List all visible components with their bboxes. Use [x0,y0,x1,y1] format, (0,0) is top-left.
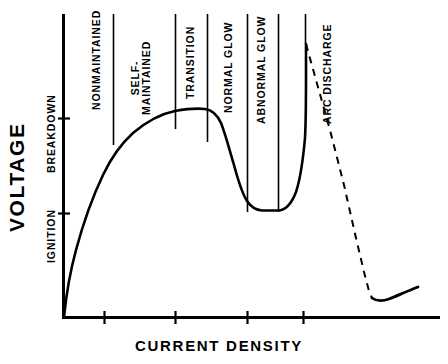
x-axis-title: CURRENT DENSITY [135,337,303,354]
y-tick-label-ignition: IGNITION [46,209,57,263]
region-label-self-maintained: SELF- MAINTAINED [130,41,151,115]
region-label-self-maintained-line2: MAINTAINED [141,41,152,115]
y-axis-title: VOLTAGE [6,122,27,232]
curve-arc-dashed [306,44,372,298]
curve-arc-solid [372,287,418,301]
region-label-nonmaintained: NONMAINTAINED [91,10,102,110]
region-label-abnormal-glow: ABNORMAL GLOW [256,16,267,124]
region-label-transition: TRANSITION [185,26,196,99]
region-label-arc-discharge: ARC DISCHARGE [322,24,333,124]
region-label-normal-glow: NORMAL GLOW [223,22,234,113]
voltage-current-characteristic-figure: VOLTAGE BREAKDOWN IGNITION NONMAINTAINED… [0,0,448,364]
y-tick-label-breakdown: BREAKDOWN [46,94,57,173]
